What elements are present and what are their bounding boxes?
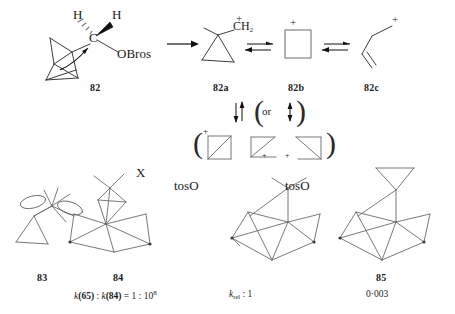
structure-82c <box>358 20 410 72</box>
structure-82b <box>282 27 314 61</box>
charge-plus-82c: + <box>392 14 398 25</box>
compound-label-83: 83 <box>37 273 47 283</box>
chemistry-scheme-figure: H H C OBros 82 CH2 + 82a <box>0 0 455 314</box>
equilibrium-arrow-1 <box>244 40 274 54</box>
resonance-structure-b <box>248 133 282 165</box>
reaction-arrow-main <box>166 38 200 50</box>
atom-c-center: C <box>89 31 98 44</box>
caption-rate-ratio-84: k(65) : k(84) = 1 : 108 <box>74 290 157 302</box>
or-text: or <box>262 106 271 117</box>
resonance-close-paren: ) <box>326 128 336 158</box>
resonance-charge-a: + <box>203 127 208 136</box>
vertical-equilibrium-arrow <box>232 100 248 124</box>
charge-plus-82a: + <box>236 13 242 24</box>
leaving-group-toso-ref: tosO <box>174 179 199 192</box>
resonance-charge-b: + <box>262 152 267 160</box>
caption-krel-reference: krel : 1 <box>229 290 252 301</box>
structure-84 <box>58 168 162 264</box>
leaving-group-toso-85: tosO <box>285 179 310 192</box>
structure-85 <box>320 166 444 268</box>
wedge-bond-h-right <box>96 22 113 36</box>
compound-label-82b: 82b <box>288 83 304 93</box>
equilibrium-arrow-2 <box>321 40 351 54</box>
or-double-headed-arrow <box>285 101 295 123</box>
substituent-x: X <box>136 166 145 179</box>
or-close-paren: ) <box>296 96 306 126</box>
leaving-group-obros: OBros <box>117 47 151 60</box>
resonance-charge-c: + <box>285 152 290 160</box>
atom-h-right: H <box>112 8 121 21</box>
compound-label-82: 82 <box>90 83 100 93</box>
charge-plus-82b: + <box>290 17 296 28</box>
compound-label-85: 85 <box>376 273 386 283</box>
atom-h-left: H <box>73 8 82 21</box>
resonance-structure-a <box>205 133 237 163</box>
resonance-open-paren: ( <box>193 128 203 158</box>
compound-label-82a: 82a <box>213 83 229 93</box>
compound-label-84: 84 <box>113 273 123 283</box>
resonance-structure-c <box>292 133 328 165</box>
caption-rate-85: 0·003 <box>366 290 388 300</box>
compound-label-82c: 82c <box>364 83 379 93</box>
